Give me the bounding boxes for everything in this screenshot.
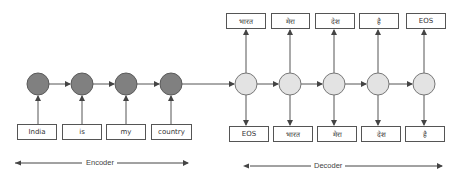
- encoder-input-text: my: [121, 128, 132, 136]
- encoder-input-text: country: [158, 128, 185, 136]
- decoder-input-box-5: है: [405, 126, 445, 142]
- encoder-node-4: [160, 73, 182, 95]
- decoder-output-text: देश: [331, 17, 340, 26]
- encoder-node-2: [71, 73, 93, 95]
- encoder-node-1: [27, 73, 49, 95]
- decoder-output-box-3: देश: [315, 13, 355, 29]
- decoder-input-arrows: [246, 95, 424, 125]
- decoder-output-box-5: EOS: [406, 13, 446, 29]
- decoder-output-text: EOS: [419, 17, 433, 25]
- decoder-input-text: भारत: [286, 130, 300, 139]
- decoder-input-box-3: मेरा: [317, 126, 357, 142]
- encoder-input-box-country: country: [151, 124, 192, 140]
- decoder-input-text: EOS: [242, 130, 256, 138]
- decoder-output-arrows: [246, 30, 424, 73]
- decoder-input-text: मेरा: [333, 130, 342, 139]
- decoder-output-box-4: है: [359, 13, 399, 29]
- decoder-input-box-4: देश: [361, 126, 401, 142]
- decoder-input-box-1: EOS: [229, 126, 269, 142]
- decoder-node-1: [235, 73, 257, 95]
- encoder-node-3: [115, 73, 137, 95]
- decoder-label: Decoder: [311, 161, 345, 170]
- decoder-input-text: देश: [377, 130, 386, 139]
- decoder-node-5: [413, 73, 435, 95]
- decoder-input-box-2: भारत: [273, 126, 313, 142]
- encoder-input-box-india: India: [17, 124, 57, 140]
- encoder-input-box-my: my: [106, 124, 146, 140]
- decoder-input-text: है: [423, 130, 427, 139]
- decoder-output-text: है: [377, 17, 381, 26]
- decoder-output-text: भारत: [239, 17, 253, 26]
- encoder-label: Encoder: [83, 158, 117, 167]
- decoder-node-2: [279, 73, 301, 95]
- decoder-node-3: [323, 73, 345, 95]
- decoder-output-box-2: मेरा: [271, 13, 310, 29]
- encoder-input-box-is: is: [62, 124, 102, 140]
- encoder-input-text: India: [28, 128, 45, 136]
- encoder-input-arrows: [38, 96, 171, 124]
- decoder-output-box-1: भारत: [226, 13, 266, 29]
- encoder-input-text: is: [79, 128, 85, 136]
- decoder-node-4: [367, 73, 389, 95]
- decoder-output-text: मेरा: [286, 17, 295, 26]
